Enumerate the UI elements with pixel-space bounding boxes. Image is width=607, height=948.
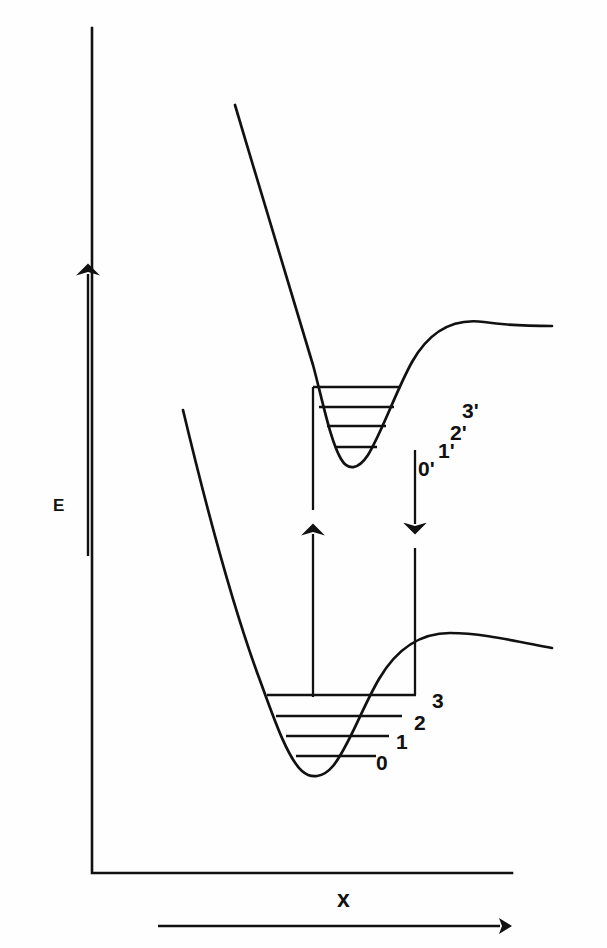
level-label-0: 0 — [376, 752, 388, 773]
ground-state-level-lines — [267, 695, 416, 756]
energy-axis-label: E — [53, 497, 65, 514]
diagram-canvas — [0, 0, 607, 948]
level-label-3-prime: 3' — [462, 400, 479, 421]
ground-state-potential-curve — [183, 410, 552, 776]
level-label-1-prime: 1' — [438, 440, 455, 461]
level-label-2: 2 — [414, 712, 426, 733]
potential-energy-diagram: E x 3' 2' 1' 0' 3 2 1 0 — [0, 0, 607, 948]
displacement-axis-label: x — [337, 888, 350, 911]
level-label-1: 1 — [396, 731, 408, 752]
level-label-3: 3 — [432, 690, 444, 711]
level-label-0-prime: 0' — [418, 458, 435, 479]
excited-state-potential-curve — [235, 105, 552, 467]
